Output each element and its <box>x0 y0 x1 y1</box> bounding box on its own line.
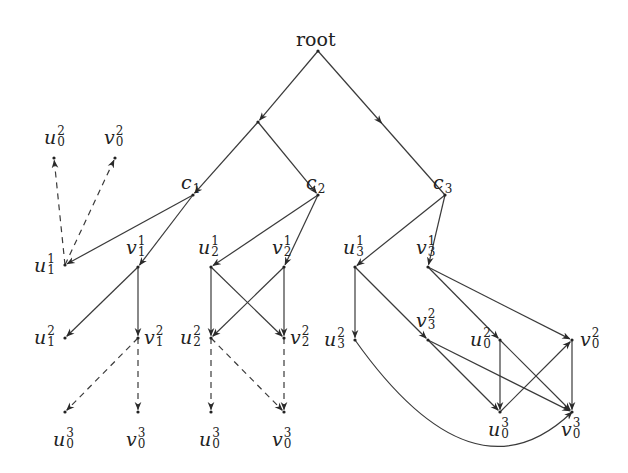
node-label-scripts: 2 <box>318 184 326 195</box>
node-label-scripts: 22 <box>193 326 201 349</box>
node-label-v12: v21 <box>144 328 163 351</box>
node-label-c3: c3 <box>433 173 452 192</box>
node-label-sub: 0 <box>212 439 220 450</box>
node-label-base: v <box>126 428 137 450</box>
node-v03_r <box>570 410 573 413</box>
node-label-scripts: 30 <box>212 428 220 451</box>
node-label-u32: u23 <box>324 330 345 353</box>
edge-v21-to-u22 <box>213 267 284 336</box>
edge-u11-to-u02_top <box>54 160 65 265</box>
node-label-base: v <box>580 328 591 350</box>
node-u31 <box>353 265 356 268</box>
node-label-base: u <box>199 428 211 450</box>
node-label-scripts: 11 <box>138 236 146 259</box>
node-label-base: u <box>44 126 56 148</box>
node-label-u03_a: u30 <box>53 430 74 453</box>
node-label-sub: 0 <box>483 339 491 350</box>
node-label-sub: 1 <box>47 265 55 276</box>
edge-mid_left-to-c1 <box>195 122 258 193</box>
node-label-scripts: 30 <box>573 418 581 441</box>
node-v02_top <box>113 156 116 159</box>
node-label-scripts: 3 <box>445 184 453 195</box>
node-label-v32: v23 <box>416 311 435 334</box>
node-label-base: u <box>34 254 46 276</box>
node-label-scripts: 20 <box>592 328 600 351</box>
node-v12 <box>136 336 139 339</box>
node-label-root: root <box>296 30 336 49</box>
node-label-v03_b: v30 <box>272 430 291 453</box>
node-label-scripts: 30 <box>284 428 292 451</box>
node-v22 <box>282 336 285 339</box>
node-label-base: u <box>34 326 46 348</box>
node-label-sub: 0 <box>66 439 74 450</box>
edge-u32-to-v03_r <box>355 340 572 446</box>
edge-u22-to-v03_b <box>211 338 282 410</box>
node-label-u12: u21 <box>34 328 55 351</box>
graph-canvas <box>0 0 628 473</box>
node-label-base: v <box>272 236 283 258</box>
edge-u03_r-to-v02_r <box>500 342 570 412</box>
node-label-scripts: 13 <box>356 236 364 259</box>
node-label-sub: 1 <box>193 184 201 195</box>
edge-v32-to-v03_r <box>428 340 570 411</box>
node-v31 <box>426 265 429 268</box>
node-u32 <box>353 338 356 341</box>
node-label-sub: 3 <box>428 247 436 258</box>
edge-v12-to-u03_a <box>67 338 138 410</box>
node-label-base: u <box>198 236 210 258</box>
node-label-sub: 2 <box>318 184 326 195</box>
node-u03_b <box>209 410 212 413</box>
mid-arrow-icon <box>380 122 381 123</box>
node-mid_left <box>256 120 259 123</box>
node-label-v02_r: v20 <box>580 330 599 353</box>
node-label-v03_r: v30 <box>561 420 580 443</box>
edge-u21-to-v22 <box>211 267 282 336</box>
node-label-sub: 3 <box>337 339 345 350</box>
node-label-sub: 3 <box>445 184 453 195</box>
node-label-scripts: 13 <box>428 236 436 259</box>
node-v03_a <box>136 410 139 413</box>
node-label-base: c <box>433 171 444 193</box>
node-label-sub: 1 <box>138 247 146 258</box>
node-label-v11: v11 <box>126 238 145 261</box>
node-label-base: u <box>180 326 192 348</box>
node-label-sub: 2 <box>211 247 219 258</box>
node-label-scripts: 23 <box>428 309 436 332</box>
node-label-sub: 2 <box>193 337 201 348</box>
node-label-sub: 3 <box>428 320 436 331</box>
node-label-u11: u11 <box>34 256 55 279</box>
node-label-sub: 0 <box>501 429 509 440</box>
node-u12 <box>63 336 66 339</box>
node-u22 <box>209 336 212 339</box>
node-label-u03_r: u30 <box>488 420 509 443</box>
node-label-base: c <box>181 171 192 193</box>
edge-c2-to-u21 <box>213 195 318 266</box>
node-label-base: v <box>272 428 283 450</box>
node-label-scripts: 30 <box>501 418 509 441</box>
node-label-base: u <box>53 428 65 450</box>
node-label-v31: v13 <box>416 238 435 261</box>
node-label-u02_top: u20 <box>44 128 65 151</box>
node-label-sub: 0 <box>284 439 292 450</box>
node-label-sub: 1 <box>156 337 164 348</box>
node-label-sub: 3 <box>356 247 364 258</box>
node-label-u21: u12 <box>198 238 219 261</box>
node-label-scripts: 11 <box>47 254 55 277</box>
node-label-sub: 0 <box>138 439 146 450</box>
node-label-scripts: 20 <box>57 126 65 149</box>
node-label-scripts: 30 <box>66 428 74 451</box>
node-label-base: v <box>104 126 115 148</box>
node-label-scripts: 21 <box>47 326 55 349</box>
node-label-base: v <box>561 418 572 440</box>
node-label-scripts: 12 <box>284 236 292 259</box>
node-u11 <box>63 263 66 266</box>
node-label-scripts: 23 <box>337 328 345 351</box>
node-label-base: v <box>144 326 155 348</box>
node-u21 <box>209 265 212 268</box>
node-label-c1: c1 <box>181 173 200 192</box>
edge-root-to-mid_left <box>260 51 318 120</box>
node-label-sub: 2 <box>284 247 292 258</box>
node-label-scripts: 22 <box>302 326 310 349</box>
node-label-scripts: 30 <box>138 428 146 451</box>
node-v21 <box>282 265 285 268</box>
